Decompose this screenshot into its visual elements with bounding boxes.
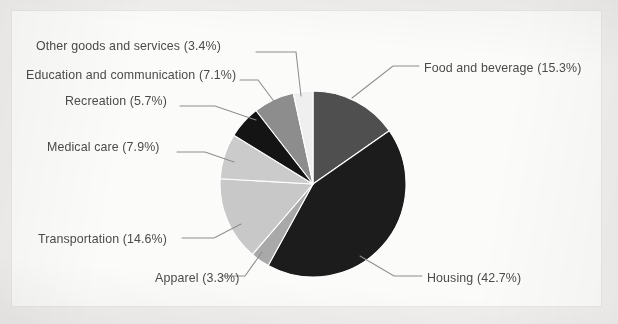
pie-label-recreation: Recreation (5.7%) [65,95,167,107]
pie-label-other-goods-and-services: Other goods and services (3.4%) [36,40,221,52]
pie-label-housing: Housing (42.7%) [427,272,521,284]
pie-chart-figure: Food and beverage (15.3%)Housing (42.7%)… [0,0,618,324]
leader-line-food-and-beverage [352,66,419,98]
pie-chart-screenshot: Food and beverage (15.3%)Housing (42.7%)… [0,0,618,324]
pie-slices-group [220,91,406,277]
pie-label-education-and-communication: Education and communication (7.1%) [26,69,236,81]
pie-label-medical-care: Medical care (7.9%) [47,141,160,153]
leader-line-housing [360,256,422,276]
pie-label-apparel: Apparel (3.3%) [155,272,239,284]
leader-line-education-and-communication [240,80,276,104]
pie-label-food-and-beverage: Food and beverage (15.3%) [424,62,581,74]
leader-line-other-goods-and-services [256,52,301,96]
pie-label-transportation: Transportation (14.6%) [38,233,167,245]
leader-line-recreation [180,106,256,120]
